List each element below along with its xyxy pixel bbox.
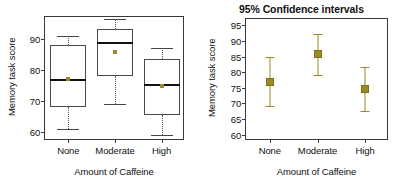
ci-x-axis-label: Amount of Caffeine <box>245 166 388 177</box>
ci-mean-marker <box>361 85 369 93</box>
y-axis-tick-label: 80 <box>231 67 241 78</box>
y-axis-tick-label: 60 <box>231 129 241 140</box>
x-axis-tick-label: None <box>57 145 79 156</box>
x-axis-tick-label: Moderate <box>95 145 134 156</box>
x-axis-tick <box>68 139 69 143</box>
figure-root: Memory task score 60708090 NoneModerateH… <box>0 0 403 185</box>
y-axis-tick-label: 70 <box>231 98 241 109</box>
y-axis-tick-label: 85 <box>231 51 241 62</box>
x-axis-tick <box>162 139 163 143</box>
x-axis-tick-label: High <box>152 145 171 156</box>
y-axis-tick-label: 60 <box>30 126 40 137</box>
boxplot-plot-area: 60708090 NoneModerateHigh <box>44 16 184 140</box>
confidence-interval-panel: 95% Confidence intervals Memory task sco… <box>200 0 403 185</box>
ci-plot-area: 6065707580859095 NoneModerateHigh <box>245 18 388 140</box>
ci-y-axis-label: Memory task score <box>206 38 217 117</box>
y-axis-tick-label: 70 <box>30 95 40 106</box>
y-axis-tick-label: 95 <box>231 20 241 31</box>
ci-errorbar-group <box>246 19 387 139</box>
x-axis-tick <box>365 139 366 143</box>
boxplot-box-group <box>45 17 183 139</box>
x-axis-tick-label: High <box>356 145 375 156</box>
y-axis-tick-label: 80 <box>30 64 40 75</box>
boxplot-upper-whisker <box>162 48 163 59</box>
x-axis-tick-label: None <box>259 145 281 156</box>
boxplot-y-axis-label: Memory task score <box>6 37 17 116</box>
ci-chart-title: 95% Confidence intervals <box>200 3 403 15</box>
x-axis-tick <box>115 139 116 143</box>
y-axis-tick-label: 90 <box>30 33 40 44</box>
boxplot-upper-cap <box>151 48 173 49</box>
x-axis-tick-label: Moderate <box>298 145 337 156</box>
boxplot-x-axis-label: Amount of Caffeine <box>44 166 184 177</box>
y-axis-tick-label: 65 <box>231 114 241 125</box>
boxplot-mean-marker <box>160 84 164 88</box>
boxplot-lower-whisker <box>162 115 163 135</box>
ci-upper-cap <box>361 67 370 68</box>
boxplot-lower-cap <box>151 135 173 136</box>
x-axis-tick <box>318 139 319 143</box>
x-axis-tick <box>270 139 271 143</box>
y-axis-tick-label: 75 <box>231 82 241 93</box>
boxplot-panel: Memory task score 60708090 NoneModerateH… <box>0 0 202 185</box>
ci-lower-cap <box>361 111 370 112</box>
y-axis-tick-label: 90 <box>231 35 241 46</box>
